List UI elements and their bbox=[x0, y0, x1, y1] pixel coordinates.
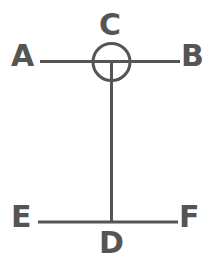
geometry-figure: A B C D E F bbox=[0, 0, 213, 272]
vertex-label-f: F bbox=[179, 202, 200, 232]
vertex-label-a: A bbox=[11, 41, 34, 71]
vertex-label-d: D bbox=[99, 228, 124, 258]
vertex-label-e: E bbox=[11, 202, 32, 232]
vertex-label-b: B bbox=[181, 41, 204, 71]
vertex-label-c: C bbox=[99, 10, 121, 40]
